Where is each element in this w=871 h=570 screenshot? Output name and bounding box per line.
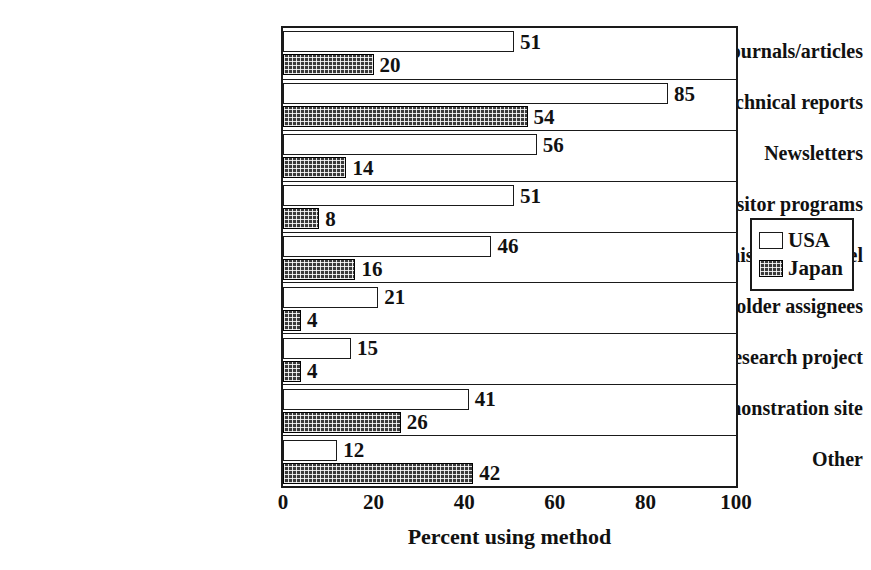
x-tick-label: 20 xyxy=(363,492,384,513)
bar-japan xyxy=(283,310,301,331)
plot-area: 512085545614518461621415441261242 xyxy=(281,26,738,488)
bar-value-label: 42 xyxy=(479,463,500,484)
chart-category-row: 518 xyxy=(283,181,736,232)
bar-value-label: 4 xyxy=(307,361,318,382)
legend-label-japan: Japan xyxy=(788,258,843,279)
chart-category-row: 8554 xyxy=(283,79,736,130)
bar-japan xyxy=(283,259,355,280)
bar-value-label: 16 xyxy=(361,259,382,280)
bar-japan xyxy=(283,106,528,127)
bar-value-label: 8 xyxy=(325,209,336,230)
bar-japan xyxy=(283,361,301,382)
bar-japan xyxy=(283,463,473,484)
chart-legend: USA Japan xyxy=(750,218,854,291)
chart-category-row: 4126 xyxy=(283,384,736,435)
bar-usa xyxy=(283,236,491,257)
bar-usa xyxy=(283,134,537,155)
bar-usa xyxy=(283,185,514,206)
chart-category-row: 1242 xyxy=(283,435,736,486)
bar-japan xyxy=(283,208,319,229)
bar-value-label: 56 xyxy=(543,135,564,156)
legend-swatch-japan-icon xyxy=(759,260,783,277)
bar-japan xyxy=(283,412,401,433)
legend-item-japan: Japan xyxy=(759,254,843,282)
bar-value-label: 85 xyxy=(674,84,695,105)
bar-value-label: 21 xyxy=(384,287,405,308)
bar-usa xyxy=(283,83,668,104)
bar-value-label: 46 xyxy=(497,236,518,257)
x-tick-label: 40 xyxy=(454,492,475,513)
bar-japan xyxy=(283,157,346,178)
x-tick-label: 100 xyxy=(720,492,752,513)
bar-value-label: 20 xyxy=(380,55,401,76)
legend-swatch-usa-icon xyxy=(759,232,783,249)
bar-value-label: 26 xyxy=(407,412,428,433)
bar-value-label: 54 xyxy=(534,107,555,128)
bar-value-label: 51 xyxy=(520,32,541,53)
chart-category-row: 5120 xyxy=(283,28,736,79)
x-tick-label: 60 xyxy=(544,492,565,513)
legend-item-usa: USA xyxy=(759,226,843,254)
bar-usa xyxy=(283,287,378,308)
bar-japan xyxy=(283,54,374,75)
bar-value-label: 12 xyxy=(343,440,364,461)
bar-usa xyxy=(283,440,337,461)
chart-category-row: 4616 xyxy=(283,232,736,283)
bar-value-label: 15 xyxy=(357,338,378,359)
x-tick-label: 80 xyxy=(635,492,656,513)
bar-usa xyxy=(283,389,469,410)
x-axis-title: Percent using method xyxy=(281,524,738,550)
chart-category-row: 214 xyxy=(283,282,736,333)
chart-category-row: 5614 xyxy=(283,130,736,181)
bar-value-label: 51 xyxy=(520,186,541,207)
legend-label-usa: USA xyxy=(788,230,830,251)
bar-value-label: 41 xyxy=(475,389,496,410)
x-axis-tick-labels: 020406080100 xyxy=(281,492,738,522)
bar-chart-figure: Journals/articlesTechnical reportsNewsle… xyxy=(0,0,871,570)
bar-value-label: 14 xyxy=(352,158,373,179)
bar-usa xyxy=(283,338,351,359)
chart-category-row: 154 xyxy=(283,333,736,384)
bar-value-label: 4 xyxy=(307,310,318,331)
bar-usa xyxy=(283,31,514,52)
x-tick-label: 0 xyxy=(278,492,289,513)
